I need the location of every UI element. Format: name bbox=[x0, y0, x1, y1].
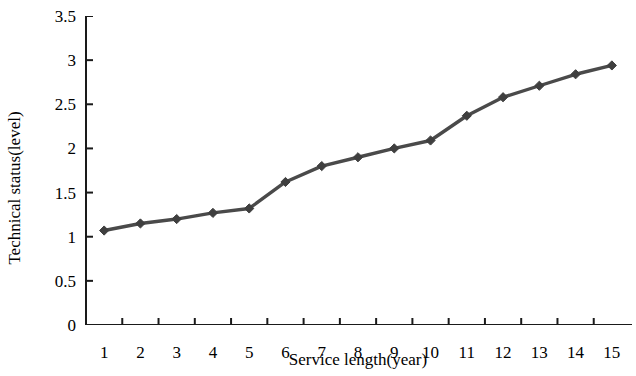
data-point-marker bbox=[172, 214, 181, 223]
data-markers bbox=[100, 61, 617, 235]
data-point-marker bbox=[353, 153, 362, 162]
y-axis-ticks bbox=[86, 16, 93, 281]
x-axis-ticks bbox=[122, 318, 593, 325]
data-line bbox=[104, 65, 612, 230]
axis-lines bbox=[86, 16, 632, 325]
plot-area: 00.511.522.533.5 123456789101112131415 bbox=[80, 16, 632, 325]
data-point-marker bbox=[535, 81, 544, 90]
line-chart: Technical status(level) Service length(y… bbox=[0, 0, 636, 376]
data-point-marker bbox=[607, 61, 616, 70]
data-point-marker bbox=[100, 226, 109, 235]
chart-canvas bbox=[80, 16, 632, 325]
data-point-marker bbox=[571, 70, 580, 79]
series-polyline bbox=[104, 65, 612, 230]
data-point-marker bbox=[136, 219, 145, 228]
y-axis-title: Technical status(level) bbox=[0, 0, 30, 376]
data-point-marker bbox=[390, 144, 399, 153]
data-point-marker bbox=[208, 208, 217, 217]
